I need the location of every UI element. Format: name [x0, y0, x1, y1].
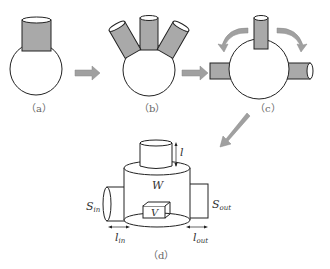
panel-c-label: （c）: [255, 103, 281, 114]
length-l-label: l: [180, 146, 184, 159]
arrow-right-icon: [75, 66, 100, 80]
panel-a-label: （a）: [26, 103, 52, 114]
curved-arrow-right-icon: [277, 28, 307, 52]
diagram-canvas: （a） （b） （c）: [0, 0, 330, 269]
arrow-down-left-icon: [220, 113, 250, 147]
panel-b-label: （b）: [139, 103, 165, 114]
panel-a-flask: [10, 17, 62, 95]
panel-d-label: （d）: [148, 250, 174, 261]
area-s-out-label: Sout: [212, 198, 231, 212]
panel-c-flask: [210, 16, 313, 100]
arrow-right-icon: [182, 66, 208, 80]
area-s-in-label: Sin: [86, 200, 101, 214]
volume-w-label: W: [152, 179, 165, 192]
length-l-out-label: lout: [193, 231, 208, 245]
length-l-in-label: lin: [115, 231, 126, 245]
panel-b-flask: [108, 16, 190, 97]
